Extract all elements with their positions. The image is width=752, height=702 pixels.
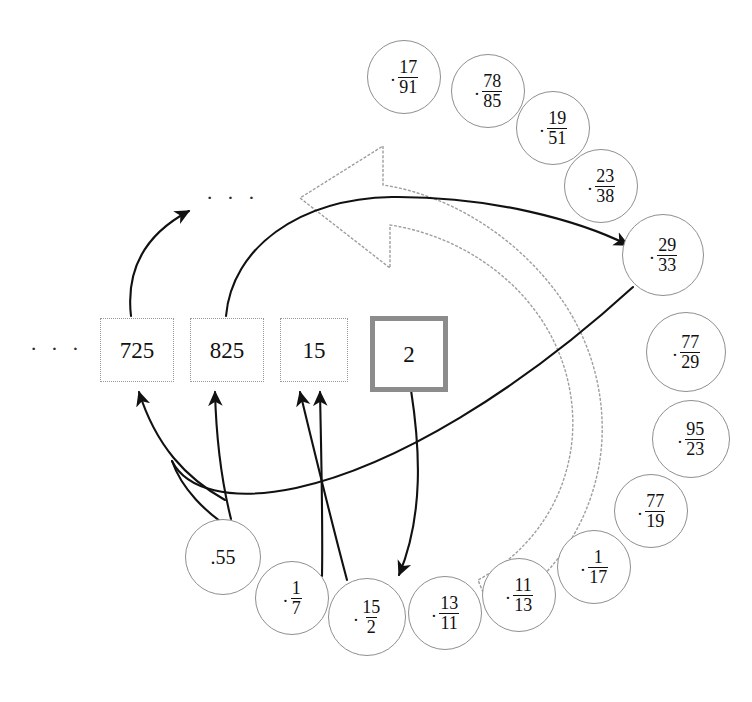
- multiply-dot-icon: ·: [539, 121, 545, 140]
- multiply-dot-icon: ·: [474, 84, 480, 103]
- fraction-numerator: 11: [513, 576, 532, 594]
- register-value: 725: [120, 339, 155, 362]
- fraction-circle-95-over-23[interactable]: ·9523: [652, 400, 730, 478]
- fraction-denominator: 29: [680, 352, 700, 371]
- fraction-circle-29-over-33[interactable]: ·2933: [622, 214, 704, 296]
- register-value: 2: [403, 343, 415, 366]
- multiply-dot-icon: ·: [282, 591, 288, 610]
- fraction-circle-23-over-38[interactable]: ·2338: [564, 149, 638, 223]
- fraction-circle-19-over-51[interactable]: ·1951: [516, 91, 590, 165]
- fraction-label: ·7729: [672, 333, 700, 371]
- fraction-circle-1-over-7[interactable]: ·17: [255, 561, 329, 635]
- multiply-dot-icon: ·: [431, 606, 437, 625]
- arrow-15over2-to-15-right: [320, 392, 322, 576]
- multiply-dot-icon: ·: [580, 560, 586, 579]
- fraction-denominator: 85: [482, 91, 502, 110]
- fraction-denominator: 91: [398, 77, 418, 96]
- register-box-825[interactable]: 825: [190, 318, 264, 382]
- register-box-2[interactable]: 2: [370, 316, 448, 392]
- fraction-label: ·9523: [677, 420, 705, 458]
- fraction-label: ·1791: [390, 58, 418, 96]
- multiply-dot-icon: ·: [505, 588, 511, 607]
- value-circle-55[interactable]: .55: [185, 519, 261, 595]
- left-ellipsis: · · ·: [30, 336, 83, 362]
- fraction-circle-13-over-11[interactable]: ·1311: [408, 576, 482, 650]
- fraction-label: ·17: [282, 579, 301, 617]
- fraction-numerator: 29: [657, 236, 677, 254]
- fraction-label: ·7719: [637, 492, 665, 530]
- arrow-2-to-15over2: [399, 390, 418, 575]
- fraction-label: ·7885: [474, 72, 502, 110]
- register-value: 825: [210, 339, 245, 362]
- fraction-numerator: 77: [680, 333, 700, 351]
- diagram-canvas: · · · · · · 725825152 ·1791·7885·1951·23…: [0, 0, 752, 702]
- fraction-label: ·2933: [649, 236, 677, 274]
- fraction-label: ·1113: [505, 576, 533, 614]
- fraction-circle-15-over-2[interactable]: ·152: [328, 578, 406, 656]
- fraction-denominator: 11: [439, 613, 458, 632]
- fraction-denominator: 23: [685, 439, 705, 458]
- fraction-circle-78-over-85[interactable]: ·7885: [451, 54, 525, 128]
- fraction-numerator: 23: [595, 167, 615, 185]
- fraction-circle-77-over-19[interactable]: ·7719: [614, 474, 688, 548]
- multiply-dot-icon: ·: [677, 432, 683, 451]
- fraction-denominator: 33: [657, 255, 677, 274]
- fraction-label: ·1951: [539, 109, 567, 147]
- fraction-denominator: 2: [366, 617, 377, 636]
- multiply-dot-icon: ·: [672, 345, 678, 364]
- fraction-label: ·2338: [587, 167, 615, 205]
- fraction-denominator: 38: [595, 186, 615, 205]
- fraction-numerator: 13: [439, 594, 459, 612]
- top-ellipsis: · · ·: [206, 185, 259, 211]
- multiply-dot-icon: ·: [353, 610, 359, 629]
- register-box-725[interactable]: 725: [100, 318, 174, 382]
- fraction-numerator: 17: [398, 58, 418, 76]
- fraction-numerator: 78: [482, 72, 502, 90]
- multiply-dot-icon: ·: [587, 179, 593, 198]
- value-label: .55: [211, 546, 236, 569]
- fraction-label: ·152: [353, 598, 381, 636]
- fraction-denominator: 51: [547, 128, 567, 147]
- fraction-numerator: 95: [685, 420, 705, 438]
- multiply-dot-icon: ·: [637, 504, 643, 523]
- fraction-circle-11-over-13[interactable]: ·1113: [482, 558, 556, 632]
- fraction-label: ·1311: [431, 594, 459, 632]
- fraction-numerator: 77: [645, 492, 665, 510]
- register-value: 15: [303, 339, 326, 362]
- fraction-numerator: 1: [291, 579, 302, 597]
- fraction-label: ·117: [580, 548, 608, 586]
- fraction-denominator: 19: [645, 511, 665, 530]
- fraction-numerator: 1: [593, 548, 604, 566]
- fraction-circle-77-over-29[interactable]: ·7729: [646, 312, 726, 392]
- fraction-numerator: 15: [361, 598, 381, 616]
- fraction-numerator: 19: [547, 109, 567, 127]
- arrow-55-to-725: [139, 392, 225, 500]
- arrow-725-to-ellipsis: [130, 211, 189, 316]
- fraction-circle-1-over-17[interactable]: ·117: [557, 530, 631, 604]
- fraction-denominator: 17: [588, 567, 608, 586]
- fraction-circle-17-over-91[interactable]: ·1791: [367, 40, 441, 114]
- multiply-dot-icon: ·: [390, 70, 396, 89]
- fraction-denominator: 7: [291, 598, 302, 617]
- register-box-15[interactable]: 15: [280, 318, 348, 382]
- arrow-825-to-29-33: [226, 197, 628, 316]
- fraction-denominator: 13: [513, 595, 533, 614]
- multiply-dot-icon: ·: [649, 248, 655, 267]
